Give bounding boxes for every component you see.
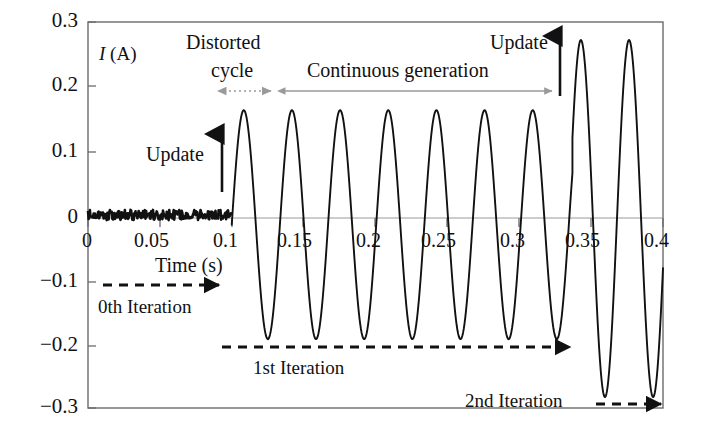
current-waveform-figure: 0.3 0.2 0.1 0 −0.1 −0.2 −0.3 0 0.05 0.1 … bbox=[0, 0, 708, 430]
y-tick-label-3: 0 bbox=[30, 206, 78, 227]
y-axis-title: I (A) bbox=[99, 44, 136, 63]
x-tick-label-3: 0.15 bbox=[277, 230, 312, 250]
x-axis-title: Time (s) bbox=[155, 255, 223, 275]
update-label-2: Update bbox=[490, 32, 548, 52]
y-tick-label-6: −0.3 bbox=[18, 396, 78, 417]
continuous-generation-label: Continuous generation bbox=[307, 60, 489, 80]
y-axis-unit: (A) bbox=[110, 43, 136, 64]
distorted-cycle-label-line2: cycle bbox=[211, 60, 253, 80]
y-tick-label-0: 0.3 bbox=[30, 10, 78, 31]
x-tick-label-8: 0.4 bbox=[644, 230, 669, 250]
x-tick-label-1: 0.05 bbox=[134, 230, 169, 250]
iteration-1-label: 1st Iteration bbox=[253, 358, 344, 377]
update-label-1: Update bbox=[146, 144, 204, 164]
y-tick-label-4: −0.1 bbox=[18, 270, 78, 291]
x-tick-label-5: 0.25 bbox=[421, 230, 456, 250]
x-tick-label-4: 0.2 bbox=[356, 230, 381, 250]
y-tick-label-5: −0.2 bbox=[18, 334, 78, 355]
x-tick-label-2: 0.1 bbox=[213, 230, 238, 250]
x-tick-label-6: 0.3 bbox=[500, 230, 525, 250]
x-tick-label-0: 0 bbox=[82, 230, 92, 250]
distorted-cycle-label-line1: Distorted bbox=[186, 32, 260, 52]
iteration-2-label: 2nd Iteration bbox=[465, 391, 563, 410]
y-tick-label-1: 0.2 bbox=[30, 74, 78, 95]
iteration-0-label: 0th Iteration bbox=[98, 297, 191, 316]
y-tick-label-2: 0.1 bbox=[30, 140, 78, 161]
x-tick-label-7: 0.35 bbox=[565, 230, 600, 250]
